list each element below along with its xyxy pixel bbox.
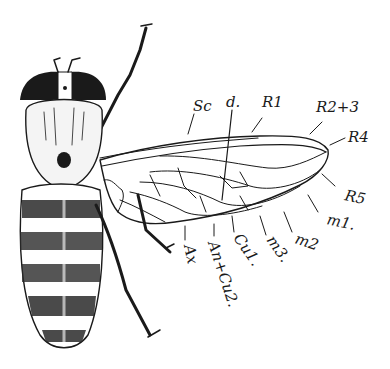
head	[20, 58, 106, 102]
label-r1: R1	[261, 93, 283, 111]
abdomen	[20, 184, 103, 348]
hind-legs	[96, 195, 174, 337]
label-m2: m2	[293, 230, 321, 254]
label-r4: R4	[347, 128, 369, 146]
label-cu1: Cu1.	[230, 230, 265, 269]
label-r5: R5	[342, 186, 367, 208]
label-r2-3: R2+3	[315, 98, 359, 116]
label-d: d.	[226, 93, 240, 111]
fly-illustration: Sc d. R1 R2+3 R4 R5 m1. m2 m3. Cu1. An+C…	[0, 0, 390, 369]
label-m1: m1.	[325, 210, 357, 234]
label-m3: m3.	[263, 232, 294, 266]
label-ax: Ax	[180, 241, 202, 266]
label-sc: Sc	[193, 97, 212, 115]
front-leg	[100, 24, 152, 130]
thorax	[26, 100, 103, 191]
fly-wing-venation-figure: Sc d. R1 R2+3 R4 R5 m1. m2 m3. Cu1. An+C…	[0, 0, 390, 369]
wing	[100, 136, 328, 224]
vein-labels: Sc d. R1 R2+3 R4 R5 m1. m2 m3. Cu1. An+C…	[180, 93, 369, 309]
